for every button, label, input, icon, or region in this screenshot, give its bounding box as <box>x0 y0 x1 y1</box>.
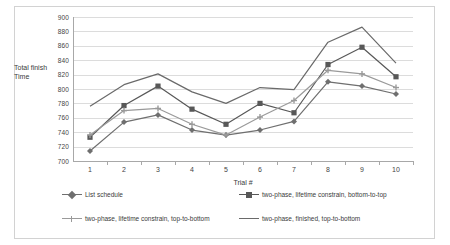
legend-item-3[interactable]: two-phase, finished, top-to-bottom <box>239 214 360 223</box>
chart-legend: List scheduletwo-phase, lifetime constra… <box>14 190 435 236</box>
legend-item-2[interactable]: two-phase, lifetime constrain, top-to-bo… <box>62 214 210 223</box>
legend-label-2: two-phase, lifetime constrain, top-to-bo… <box>85 215 210 223</box>
legend-key-none-icon <box>239 214 259 223</box>
series-3 <box>90 27 396 106</box>
legend-item-1[interactable]: two-phase, lifetime constrain, bottom-to… <box>239 190 387 199</box>
chart-figure: Total finish Time 7007207407607808008208… <box>0 0 450 245</box>
series-0 <box>87 79 399 154</box>
legend-key-diamond-icon <box>62 190 82 199</box>
legend-label-3: two-phase, finished, top-to-bottom <box>262 215 360 223</box>
legend-label-1: two-phase, lifetime constrain, bottom-to… <box>262 191 387 199</box>
series-2 <box>87 67 399 138</box>
legend-key-cross-icon <box>62 214 82 223</box>
legend-item-0[interactable]: List schedule <box>62 190 123 199</box>
legend-key-square-icon <box>239 190 259 199</box>
legend-label-0: List schedule <box>85 191 123 199</box>
